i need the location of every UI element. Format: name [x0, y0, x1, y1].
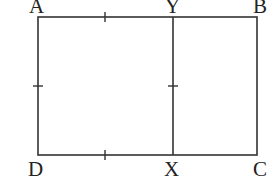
- label-c: C: [253, 157, 267, 179]
- diagram-canvas: A Y B D X C: [0, 0, 274, 179]
- label-x: X: [164, 157, 179, 179]
- geometry-figure: A Y B D X C: [0, 0, 274, 179]
- label-d: D: [28, 157, 43, 179]
- label-a: A: [29, 0, 45, 18]
- label-b: B: [253, 0, 267, 18]
- label-y: Y: [165, 0, 180, 18]
- rectangle-abcd: [38, 17, 257, 155]
